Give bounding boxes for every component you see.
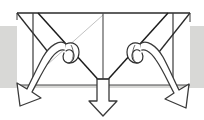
origami-diagram-canvas: Origami fold step diagram Flattened pape… xyxy=(0,0,204,120)
origami-diagram: Origami fold step diagram Flattened pape… xyxy=(0,0,204,120)
